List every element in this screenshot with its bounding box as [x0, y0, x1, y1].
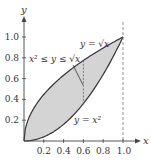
y-axis-arrow-icon [22, 16, 27, 22]
upper-curve-label: y = √x [79, 39, 109, 49]
y-tick-label: 1.0 [5, 32, 20, 42]
x-axis-label: x [143, 135, 149, 146]
y-tick-label: 0.4 [5, 94, 20, 104]
x-tick-label: 0.6 [76, 146, 91, 156]
y-tick-label: 0.6 [5, 74, 20, 84]
region-label: x² ≤ y ≤ √x [29, 54, 80, 64]
x-tick-label: 1.0 [117, 146, 132, 156]
y-axis-label: y [20, 4, 27, 15]
x-axis-arrow-icon [135, 139, 141, 144]
shaded-region [24, 37, 123, 141]
y-tick-label: 0.2 [5, 115, 19, 125]
x-tick-label: 0.2 [37, 146, 51, 156]
x-tick-label: 0.4 [56, 146, 71, 156]
x-tick-label: 0.8 [96, 146, 111, 156]
region-diagram: 0.2 0.4 0.6 0.8 1.0 0.2 0.4 0.6 0.8 1.0 … [0, 0, 151, 166]
lower-curve-label: y = x² [73, 115, 101, 125]
y-tick-label: 0.8 [5, 53, 20, 63]
